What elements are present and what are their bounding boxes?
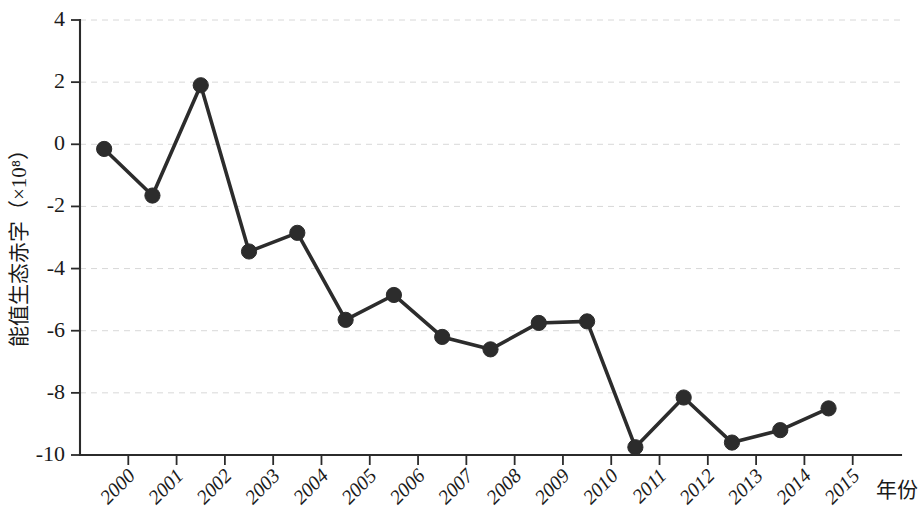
y-tick-label: 4 xyxy=(54,6,65,31)
data-point-marker xyxy=(338,312,353,327)
data-point-marker xyxy=(386,287,401,302)
chart-page: 420-2-4-6-8-10 2000200120022003200420052… xyxy=(0,0,921,515)
data-point-marker xyxy=(773,423,788,438)
data-point-marker xyxy=(435,329,450,344)
data-point-marker xyxy=(193,78,208,93)
data-point-marker xyxy=(290,225,305,240)
y-tick-label: -8 xyxy=(47,379,65,404)
x-axis-title-text: 年份 xyxy=(876,478,918,502)
data-point-marker xyxy=(241,244,256,259)
data-point-marker xyxy=(579,314,594,329)
y-axis-title: 能值生态赤字（×10⁸） xyxy=(7,139,31,347)
y-axis-title-text: 能值生态赤字（×10⁸） xyxy=(7,139,31,347)
data-point-marker xyxy=(676,390,691,405)
emergy-ecological-deficit-line-chart: 420-2-4-6-8-10 2000200120022003200420052… xyxy=(0,0,921,515)
y-tick-label: -4 xyxy=(47,255,65,280)
data-point-marker xyxy=(483,342,498,357)
data-point-marker xyxy=(531,315,546,330)
data-point-marker xyxy=(97,141,112,156)
data-point-marker xyxy=(821,401,836,416)
data-point-marker xyxy=(724,435,739,450)
y-tick-label: 2 xyxy=(54,68,65,93)
y-tick-label: -10 xyxy=(36,441,65,466)
data-point-marker xyxy=(145,188,160,203)
y-tick-label: -6 xyxy=(47,317,65,342)
data-point-marker xyxy=(628,440,643,455)
y-tick-label: -2 xyxy=(47,192,65,217)
y-tick-label: 0 xyxy=(54,130,65,155)
